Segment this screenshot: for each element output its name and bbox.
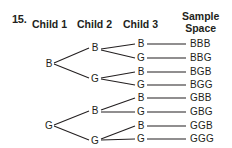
branch-2-8 (101, 139, 135, 140)
child1-node-girl: G (45, 121, 53, 131)
branch-1-1 (54, 48, 89, 63)
child3-node-6: G (137, 107, 145, 117)
sample-outcome-1: BBB (190, 39, 211, 49)
child2-node-3: B (92, 106, 99, 116)
branch-2-4 (101, 79, 135, 85)
branch-1-4 (54, 126, 89, 140)
child3-node-7: B (138, 121, 145, 131)
branch-1-3 (54, 111, 89, 125)
child3-node-4: G (137, 80, 145, 90)
sample-outcome-6: GBG (190, 107, 213, 117)
child2-node-2: G (91, 74, 99, 84)
branch-2-5 (101, 98, 135, 110)
child2-node-1: B (92, 43, 99, 53)
child3-node-8: G (137, 134, 145, 144)
sample-outcome-7: GGB (190, 121, 213, 131)
child3-node-1: B (138, 39, 145, 49)
child3-node-2: G (137, 53, 145, 63)
branch-2-1 (101, 44, 135, 49)
sample-outcome-2: BBG (190, 53, 212, 63)
child2-node-4: G (91, 136, 99, 146)
branch-1-2 (54, 64, 89, 78)
sample-outcome-3: BGB (190, 67, 212, 77)
child3-node-3: B (138, 67, 145, 77)
child3-node-5: B (138, 93, 145, 103)
branch-2-7 (101, 126, 135, 139)
branch-2-2 (101, 50, 135, 58)
sample-outcome-5: GBB (190, 93, 212, 103)
sample-outcome-8: GGG (190, 134, 214, 144)
branch-2-3 (101, 72, 135, 78)
sample-outcome-4: BGG (190, 80, 213, 90)
child1-node-boy: B (46, 59, 53, 69)
